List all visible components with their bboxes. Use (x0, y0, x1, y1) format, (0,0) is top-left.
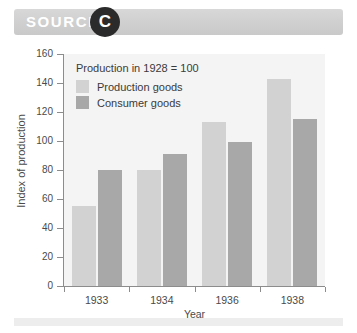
legend-label-production-goods: Production goods (97, 81, 183, 93)
y-tick-mark (57, 54, 63, 55)
y-tick-mark (57, 257, 63, 258)
footer-bar (14, 318, 343, 326)
y-tick-mark (57, 286, 63, 287)
bar-1936-consumer-goods (228, 142, 252, 286)
y-tick-label: 120 (7, 106, 53, 117)
x-tick-mark (129, 287, 130, 292)
legend-swatch-production-goods (76, 80, 89, 93)
y-tick-mark (57, 83, 63, 84)
y-tick-mark (57, 141, 63, 142)
bar-chart: Index of production 02040608010012014016… (0, 40, 357, 295)
x-tick-mark (195, 287, 196, 292)
bar-1938-consumer-goods (293, 119, 317, 286)
y-tick-label: 80 (7, 164, 53, 175)
x-tick-mark (64, 287, 65, 292)
x-tick-mark (260, 287, 261, 292)
x-tick-mark (325, 287, 326, 292)
x-tick-label: 1938 (262, 294, 322, 306)
y-tick-label: 140 (7, 77, 53, 88)
x-tick-label: 1934 (132, 294, 192, 306)
legend-item-production-goods: Production goods (76, 80, 199, 93)
y-tick-mark (57, 170, 63, 171)
legend-item-consumer-goods: Consumer goods (76, 96, 199, 109)
y-tick-label: 160 (7, 48, 53, 59)
legend-swatch-consumer-goods (76, 96, 89, 109)
y-tick-label: 60 (7, 193, 53, 204)
y-tick-label: 0 (7, 280, 53, 291)
legend-title: Production in 1928 = 100 (76, 62, 199, 74)
bar-1933-production-goods (72, 206, 96, 286)
legend: Production in 1928 = 100 Production good… (76, 62, 199, 112)
y-tick-mark (57, 199, 63, 200)
bar-1933-consumer-goods (98, 170, 122, 286)
y-tick-label: 100 (7, 135, 53, 146)
y-tick-label: 20 (7, 251, 53, 262)
source-label: SOURCE (26, 13, 100, 30)
legend-label-consumer-goods: Consumer goods (97, 97, 181, 109)
source-banner: SOURCE C (14, 9, 343, 35)
bar-1936-production-goods (202, 122, 226, 286)
bar-1938-production-goods (267, 79, 291, 286)
bar-1934-production-goods (137, 170, 161, 286)
source-badge-letter: C (90, 7, 120, 37)
bar-1934-consumer-goods (163, 154, 187, 286)
y-tick-label: 40 (7, 222, 53, 233)
y-tick-mark (57, 112, 63, 113)
y-tick-mark (57, 228, 63, 229)
x-tick-label: 1933 (67, 294, 127, 306)
y-axis-line (63, 54, 64, 287)
x-tick-label: 1936 (197, 294, 257, 306)
